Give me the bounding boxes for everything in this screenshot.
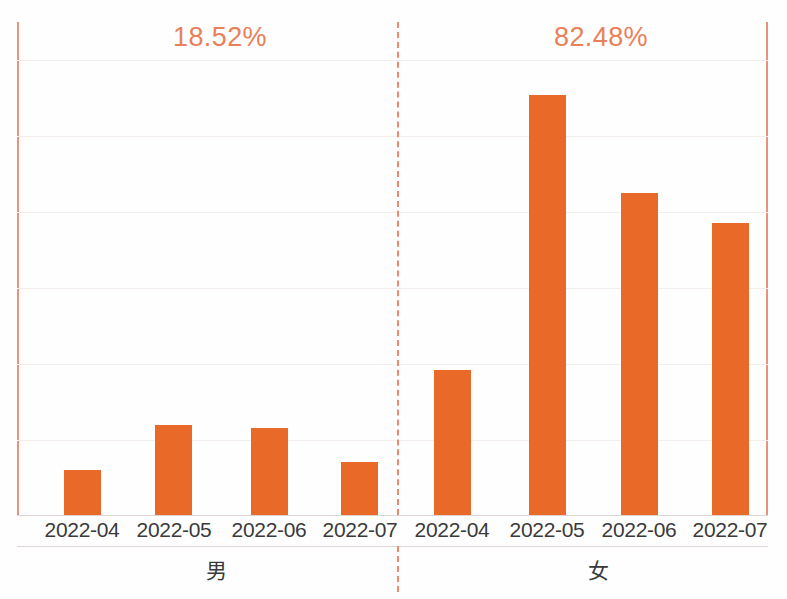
group-label-female: 女	[588, 554, 609, 584]
group-divider-bottom	[397, 546, 399, 592]
bars-layer	[0, 0, 787, 515]
bar-male-2022-04[interactable]	[64, 470, 101, 515]
bar-female-2022-04[interactable]	[434, 370, 471, 515]
x-axis-tick-labels: 2022-04 2022-05 2022-06 2022-07 2022-04 …	[0, 516, 787, 550]
bar-male-2022-07[interactable]	[341, 462, 378, 515]
tick-female-4: 2022-07	[693, 518, 768, 542]
bar-male-2022-06[interactable]	[251, 428, 288, 515]
tick-female-1: 2022-04	[415, 518, 490, 542]
tick-female-2: 2022-05	[510, 518, 585, 542]
bar-female-2022-07[interactable]	[712, 223, 749, 515]
group-rule-right	[399, 546, 768, 547]
bar-female-2022-05[interactable]	[529, 95, 566, 515]
tick-male-2: 2022-05	[137, 518, 212, 542]
group-rule-left	[17, 546, 397, 547]
group-labels-row: 男 女	[0, 546, 787, 586]
tick-female-3: 2022-06	[602, 518, 677, 542]
tick-male-4: 2022-07	[323, 518, 398, 542]
tick-male-1: 2022-04	[45, 518, 120, 542]
bar-male-2022-05[interactable]	[155, 425, 192, 515]
tick-male-3: 2022-06	[232, 518, 307, 542]
bar-female-2022-06[interactable]	[621, 193, 658, 515]
group-label-male: 男	[206, 554, 227, 584]
bar-chart: 18.52% 82.48% 2022-04 2022-05 2022-06 20…	[0, 0, 787, 599]
